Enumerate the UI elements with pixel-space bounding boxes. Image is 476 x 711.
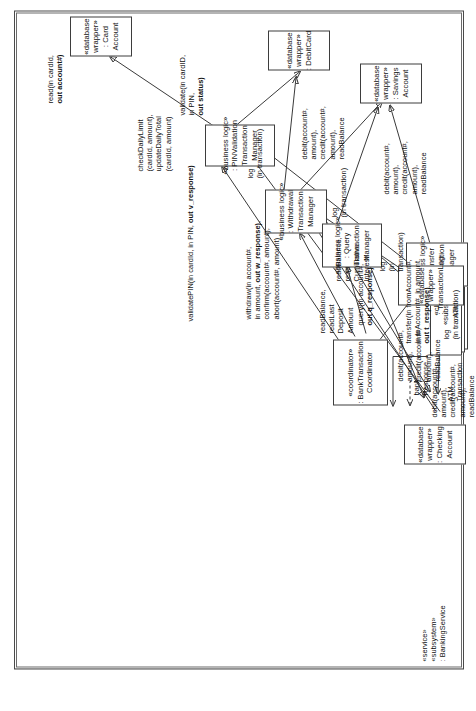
- savings-account-name1: : Savings: [391, 67, 401, 99]
- debit-card-name1: : DebitCard: [304, 30, 314, 70]
- withdrawal-name1: : Withdrawal: [286, 190, 296, 233]
- card-account-stereotype: «database: [82, 18, 92, 54]
- validate-card-text: validate(in cardID, in PIN,: [178, 54, 196, 115]
- debit-card-stereotype: «database: [285, 32, 295, 68]
- banking-service-stereotype: «service»: [420, 629, 429, 661]
- banking-service-name: : BankingService: [438, 605, 447, 661]
- savings-account-name2: Account: [401, 69, 411, 97]
- withdrawal-name2: Transaction: [296, 191, 306, 232]
- validate-pin-out: out v_response): [186, 165, 195, 223]
- checking-account-name1: : Checking: [435, 426, 445, 463]
- pin-validation-stereotype: «business logic»: [221, 116, 231, 174]
- debit-card-stereotype2: wrapper»: [294, 34, 304, 66]
- withdrawal-name3: Manager: [306, 196, 316, 227]
- checking-account-stereotype2: wrapper»: [425, 428, 435, 460]
- card-account-name2: Account: [111, 22, 121, 50]
- read-balance-cumulative-message: readBalance, read Cumulative Interest: [334, 237, 371, 281]
- withdraw-message: withdraw(in account#, in amount, out w_r…: [244, 220, 281, 319]
- validate-pin-message: validatePIN(in cardId, in PIN, out v_res…: [186, 165, 195, 321]
- read-card-message: read(in cardId, out account#): [46, 54, 64, 103]
- savings-account-node[interactable]: «database wrapper» : Savings Account: [360, 63, 422, 103]
- coordinator-name2: Coordinator: [365, 352, 375, 393]
- uml-diagram-stage: «service»«subsystem»: BankingService «cl…: [0, 0, 476, 711]
- checking-account-name2: Account: [445, 430, 455, 458]
- validate-card-out: out status): [196, 77, 205, 115]
- checking-account-stereotype: «database: [416, 426, 426, 462]
- read-card-out: out account#): [55, 54, 64, 103]
- log-withdrawal-message: log (in transaction): [330, 167, 348, 217]
- savings-account-stereotype: «database: [372, 65, 382, 101]
- checking-account-node[interactable]: «database wrapper» : Checking Account: [404, 424, 466, 464]
- debit-credit-savings-message: debit(account#, amount), credit(account#…: [300, 106, 346, 159]
- coordinator-stereotype: «coordinator»: [346, 348, 356, 396]
- withdraw-out: out w_response): [253, 222, 262, 281]
- pin-validation-name1: : PINValidation: [230, 119, 240, 170]
- card-account-stereotype2: wrapper»: [91, 20, 101, 52]
- banking-service-label: «service»«subsystem»: BankingService: [420, 605, 448, 661]
- log-query-message: log (in transaction): [378, 232, 406, 271]
- validate-card-message: validate(in cardID, in PIN, out status): [178, 54, 206, 115]
- coordinator-name1: : BankTransaction: [356, 341, 366, 404]
- pin-validation-transaction-manager-node[interactable]: «business logic» : PINValidation Transac…: [205, 124, 275, 166]
- validate-pin-text: validatePIN(in cardId, in PIN,: [186, 223, 195, 322]
- read-balance-deposit-message: readBalance, readLast Deposit Amount: [318, 289, 355, 333]
- debit-credit-transfer-message: debit(account#, amount), credit(account#…: [430, 364, 476, 417]
- banking-service-stereotype2: «subsystem»: [429, 617, 438, 661]
- check-daily-limit-message: checkDailyLimit (cardId, amount), update…: [136, 114, 173, 171]
- savings-account-stereotype2: wrapper»: [381, 67, 391, 99]
- screenshot-canvas: «service»«subsystem»: BankingService «cl…: [0, 0, 476, 711]
- log-pin-message: log (in transaction): [246, 128, 264, 178]
- debit-credit-query-message: debit(account#, amount), credit(account#…: [382, 141, 428, 194]
- log-transfer-message: log (in transaction): [442, 289, 460, 339]
- bank-transaction-coordinator-node[interactable]: «coordinator» : BankTransaction Coordina…: [333, 339, 388, 405]
- card-account-node[interactable]: «database wrapper» : Card Account: [70, 16, 132, 56]
- card-account-name1: : Card: [101, 25, 111, 46]
- read-card-text: read(in cardId,: [46, 55, 55, 103]
- debit-card-node[interactable]: «database wrapper» : DebitCard: [268, 30, 330, 70]
